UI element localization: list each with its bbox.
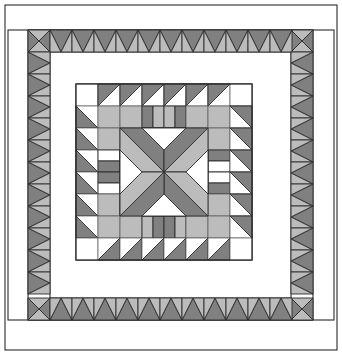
medallion-unit-r6c5 [186, 216, 208, 238]
medallion-unit-r4c1-t [98, 172, 120, 183]
medallion-unit-r0c7 [230, 84, 252, 106]
medallion-unit-r1c4-l [164, 106, 175, 128]
medallion-unit-r1c6 [208, 106, 230, 128]
medallion-unit-r6c1 [98, 216, 120, 238]
medallion-unit-r0c0 [76, 84, 98, 106]
medallion-unit-r6c4-r [175, 216, 186, 238]
medallion-unit-r6c3-r [153, 216, 164, 238]
medallion-unit-r7c7 [230, 238, 252, 260]
quilt-canvas [0, 0, 342, 355]
medallion-unit-r1c1 [98, 106, 120, 128]
medallion-unit-r6c4-l [164, 216, 175, 238]
medallion-unit-r6c3-l [142, 216, 153, 238]
medallion-unit-r1c5 [186, 106, 208, 128]
medallion-unit-r1c4-r [175, 106, 186, 128]
medallion-unit-r2c1 [98, 128, 120, 150]
eight-pointed-star [120, 128, 208, 216]
medallion-unit-r1c3-r [153, 106, 164, 128]
medallion-unit-r5c1 [98, 194, 120, 216]
quilt-diagram [0, 0, 342, 355]
medallion-unit-r4c6-t [208, 172, 230, 183]
medallion-unit-r3c1-b [98, 161, 120, 172]
medallion-unit-r1c2 [120, 106, 142, 128]
medallion-unit-r1c3-l [142, 106, 153, 128]
medallion-unit-r7c0 [76, 238, 98, 260]
medallion-unit-r3c6-t [208, 150, 230, 161]
center-medallion-layer [76, 84, 252, 260]
medallion-unit-r6c2 [120, 216, 142, 238]
medallion-unit-r3c6-b [208, 161, 230, 172]
medallion-unit-r6c6 [208, 216, 230, 238]
medallion-unit-r4c6-b [208, 183, 230, 194]
medallion-unit-r3c1-t [98, 150, 120, 161]
medallion-unit-r2c6 [208, 128, 230, 150]
medallion-unit-r4c1-b [98, 183, 120, 194]
medallion-unit-r5c6 [208, 194, 230, 216]
